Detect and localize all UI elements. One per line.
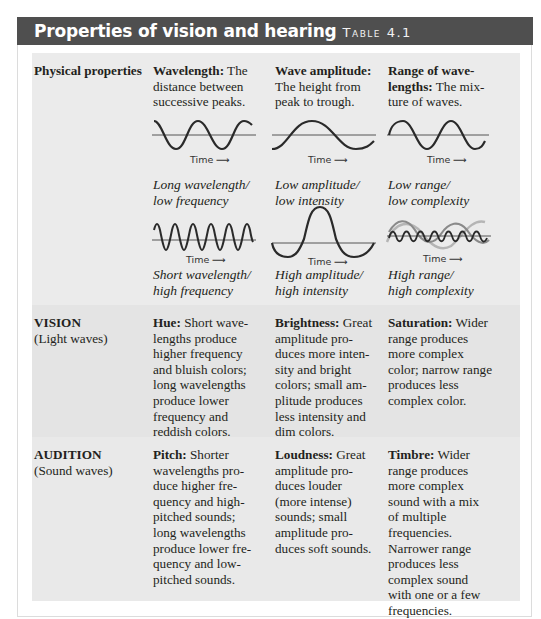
cell-wavelength: Wavelength: The distance between success… <box>153 63 268 110</box>
term: Wave amplitude: <box>275 63 371 78</box>
caption-long-wavelength: Long wavelength/low frequency <box>153 177 249 208</box>
time-axis-label: Time <box>189 154 213 165</box>
caption-line: Low amplitude/ <box>275 177 359 193</box>
row-label-sub: (Light waves) <box>34 331 152 347</box>
cell-saturation: Saturation: Wider range produces more co… <box>388 315 494 409</box>
definition: Shorter wavelengths pro-duce higher fre-… <box>153 447 251 587</box>
time-axis-label: Time <box>307 154 331 165</box>
table-title: Properties of vision and hearingTable 4.… <box>34 21 412 41</box>
time-axis-label: Time <box>307 256 331 267</box>
cell-brightness: Brightness: Great amplitude pro-duces mo… <box>275 315 381 440</box>
caption-line: Low range/ <box>388 177 469 193</box>
definition: Wider range produces more complex sound … <box>388 447 480 618</box>
table-body: Physical properties Wavelength: The dist… <box>32 53 520 601</box>
row-label: VISION(Light waves) <box>34 315 152 346</box>
caption-line: Short wavelength/ <box>153 267 251 283</box>
definition: Short wave-lengths produce higher freque… <box>153 315 248 439</box>
arrow-icon: ⟶ <box>216 154 230 165</box>
table-label: Table 4.1 <box>343 25 412 40</box>
caption-low-range: Low range/low complexity <box>388 177 469 208</box>
long-wavelength-wave-diagram: Time ⟶ <box>150 119 260 167</box>
cell-hue: Hue: Short wave-lengths produce higher f… <box>153 315 265 440</box>
arrow-icon: ⟶ <box>212 254 226 265</box>
table-row-vision: VISION(Light waves) Hue: Short wave-leng… <box>32 305 520 437</box>
arrow-icon: ⟶ <box>453 154 467 165</box>
cell-wave-amplitude: Wave amplitude: The height from peak to … <box>275 63 385 110</box>
caption-line: high intensity <box>275 283 363 299</box>
caption-line: Long wavelength/ <box>153 177 249 193</box>
caption-short-wavelength: Short wavelength/high frequency <box>153 267 251 298</box>
cell-range-of-wavelengths: Range of wave-lengths: The mix-ture of w… <box>388 63 488 110</box>
term: Brightness: <box>275 315 339 330</box>
term: Wavelength: <box>153 63 224 78</box>
low-range-wave-diagram: Time ⟶ <box>385 119 495 167</box>
definition: The height from peak to trough. <box>275 79 361 110</box>
term: Loudness: <box>275 447 333 462</box>
arrow-icon: ⟶ <box>334 256 348 267</box>
caption-line: high frequency <box>153 283 251 299</box>
term: Saturation: <box>388 315 452 330</box>
caption-line: High amplitude/ <box>275 267 363 283</box>
high-amplitude-wave-diagram: Time ⟶ <box>270 203 380 267</box>
term: Hue: <box>153 315 181 330</box>
definition: Great amplitude pro-duces louder (more i… <box>275 447 371 556</box>
term: Pitch: <box>153 447 187 462</box>
cell-loudness: Loudness: Great amplitude pro-duces loud… <box>275 447 375 556</box>
row-label-sub: (Sound waves) <box>34 463 152 479</box>
caption-line: High range/ <box>388 267 474 283</box>
time-axis-label: Time <box>185 254 209 265</box>
row-label-bold: Physical properties <box>34 63 142 78</box>
cell-pitch: Pitch: Shorter wavelengths pro-duce high… <box>153 447 253 587</box>
caption-high-amplitude: High amplitude/high intensity <box>275 267 363 298</box>
time-axis-label: Time <box>426 154 450 165</box>
short-wavelength-wave-diagram: Time ⟶ <box>150 218 260 266</box>
row-label: AUDITION(Sound waves) <box>34 447 152 478</box>
term: Timbre: <box>388 447 434 462</box>
caption-line: low complexity <box>388 193 469 209</box>
row-label: Physical properties <box>34 63 152 79</box>
high-range-wave-diagram: Time ⟶ <box>385 216 495 266</box>
caption-high-range: High range/high complexity <box>388 267 474 298</box>
time-axis-label: Time <box>422 253 446 264</box>
cell-timbre: Timbre: Wider range produces more comple… <box>388 447 492 619</box>
caption-line: high complexity <box>388 283 474 299</box>
table-row-physical-properties: Physical properties Wavelength: The dist… <box>32 53 520 305</box>
low-amplitude-wave-diagram: Time ⟶ <box>270 119 380 167</box>
caption-line: low frequency <box>153 193 249 209</box>
definition: Great amplitude pro-duces more inten-sit… <box>275 315 372 439</box>
arrow-icon: ⟶ <box>334 154 348 165</box>
title-text: Properties of vision and hearing <box>34 21 337 41</box>
table-row-audition: AUDITION(Sound waves) Pitch: Shorter wav… <box>32 437 520 601</box>
row-label-bold: AUDITION <box>34 447 101 462</box>
row-label-bold: VISION <box>34 315 81 330</box>
table-header-bar: Properties of vision and hearingTable 4.… <box>17 17 533 45</box>
arrow-icon: ⟶ <box>449 253 463 264</box>
